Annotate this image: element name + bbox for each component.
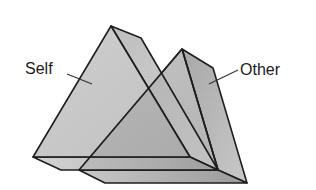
self-base-face xyxy=(33,157,218,170)
self-label: Self xyxy=(25,61,53,77)
prism-diagram xyxy=(0,0,316,190)
other-base-face xyxy=(79,170,247,183)
other-label: Other xyxy=(240,62,280,78)
diagram-canvas: Self Other xyxy=(0,0,316,190)
